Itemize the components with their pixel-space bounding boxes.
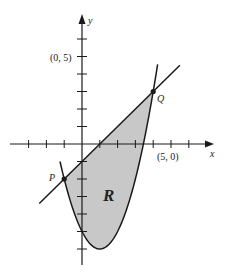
- diagram-figure: y x (0, 5) (5, 0) P Q R: [0, 0, 226, 272]
- region-r: [64, 92, 153, 250]
- y-axis-label: y: [87, 15, 93, 26]
- point-p-label: P: [48, 172, 55, 183]
- x-tick-label: (5, 0): [157, 151, 179, 163]
- x-axis-arrow-icon: [205, 141, 214, 148]
- region-label: R: [102, 186, 114, 205]
- point-q-label: Q: [157, 93, 165, 104]
- y-axis-arrow-icon: [79, 14, 86, 24]
- x-axis-label: x: [209, 148, 215, 159]
- y-tick-label: (0, 5): [50, 52, 72, 64]
- point-q: [151, 89, 156, 94]
- point-p: [62, 176, 67, 181]
